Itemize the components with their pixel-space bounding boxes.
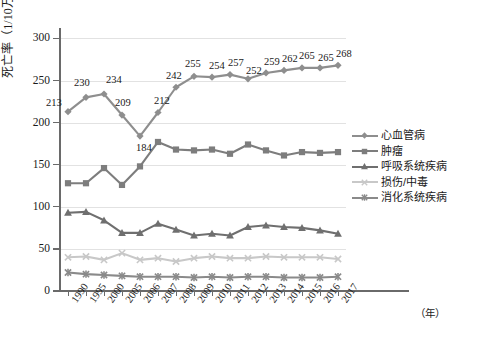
legend-item-0[interactable]: 心血管病 <box>352 128 476 144</box>
legend-label: 消化系统疾病 <box>378 192 447 203</box>
data-point-marker <box>137 163 143 169</box>
legend-marker-icon <box>352 176 378 188</box>
data-label: 257 <box>228 58 244 69</box>
series-line <box>68 253 338 261</box>
legend-label: 损伤/中毒 <box>378 177 428 188</box>
data-point-marker <box>226 71 233 78</box>
data-label: 234 <box>106 75 122 86</box>
data-label: 265 <box>318 53 334 64</box>
series-line <box>68 142 338 185</box>
data-point-marker <box>245 141 251 147</box>
legend-marker-icon <box>352 192 378 204</box>
data-label: 184 <box>136 143 152 154</box>
series-line <box>68 272 338 277</box>
data-point-marker <box>227 151 233 157</box>
legend-label: 心血管病 <box>378 130 425 141</box>
data-point-marker <box>334 62 341 69</box>
data-label: 255 <box>185 59 201 70</box>
legend-marker-icon <box>352 145 378 157</box>
data-point-marker <box>154 220 162 227</box>
data-label: 259 <box>264 57 280 68</box>
data-point-marker <box>281 152 287 158</box>
legend-label: 肿瘤 <box>378 146 403 157</box>
legend-marker-icon <box>352 130 378 142</box>
legend-item-4[interactable]: 消化系统疾病 <box>352 190 476 206</box>
data-label: 252 <box>246 66 262 77</box>
data-point-marker <box>280 67 287 74</box>
series-2 <box>64 208 342 239</box>
legend-marker-icon <box>352 161 378 173</box>
data-label: 265 <box>299 51 315 62</box>
chart-container: 050100150200250300 199019952000200520062… <box>0 0 478 343</box>
data-label: 242 <box>166 71 182 82</box>
data-point-marker <box>173 146 179 152</box>
data-point-marker <box>209 146 215 152</box>
data-point-marker <box>262 69 269 76</box>
data-point-marker <box>208 74 215 81</box>
data-point-marker <box>316 64 323 71</box>
data-label: 209 <box>115 98 131 109</box>
legend-item-1[interactable]: 肿瘤 <box>352 144 476 160</box>
series-4 <box>65 269 341 281</box>
data-label: 254 <box>209 61 225 72</box>
data-point-marker <box>65 180 71 186</box>
data-point-marker <box>155 139 161 145</box>
data-point-marker <box>298 64 305 71</box>
data-label: 213 <box>46 98 62 109</box>
series-line <box>68 212 338 236</box>
data-point-marker <box>299 149 305 155</box>
data-point-marker <box>191 147 197 153</box>
data-label: 212 <box>154 96 170 107</box>
data-point-marker <box>101 165 107 171</box>
legend-item-2[interactable]: 呼吸系统疾病 <box>352 159 476 175</box>
data-label: 268 <box>336 49 352 60</box>
legend-label: 呼吸系统疾病 <box>378 161 447 172</box>
data-point-marker <box>335 149 341 155</box>
data-point-marker <box>263 147 269 153</box>
data-label: 230 <box>74 78 90 89</box>
data-point-marker <box>317 150 323 156</box>
data-label: 262 <box>282 54 298 65</box>
data-point-marker <box>119 182 125 188</box>
legend-item-3[interactable]: 损伤/中毒 <box>352 175 476 191</box>
series-1 <box>65 139 341 188</box>
series-3 <box>65 250 341 265</box>
data-point-marker <box>83 180 89 186</box>
legend: 心血管病肿瘤呼吸系统疾病损伤/中毒消化系统疾病 <box>352 128 476 206</box>
